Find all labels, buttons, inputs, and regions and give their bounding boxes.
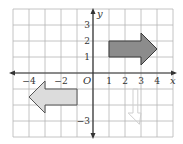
origin-label: O [83,75,91,86]
x-tick-label: −4 [22,76,36,86]
y-tick-label: 1 [84,52,90,62]
y-tick-label: 3 [84,20,90,30]
x-tick-label: −2 [54,76,67,86]
x-tick-label: 4 [154,76,160,86]
y-axis-arrow-down-icon [91,133,96,139]
dark-arrow-right [109,33,157,65]
x-tick-label: 2 [122,76,128,86]
x-tick-label: 3 [138,76,144,86]
coordinate-plane: x y O −4−21234321−3 [0,0,183,144]
x-axis-label: x [170,75,176,86]
y-tick-label: −3 [77,116,91,126]
light-arrow-left [29,81,77,113]
y-tick-label: 2 [84,36,90,46]
axes [9,8,177,139]
y-axis-label: y [96,8,103,19]
x-tick-label: 1 [106,76,112,86]
x-axis-arrow-left-icon [9,71,15,76]
faint-arrow-down [128,89,141,124]
